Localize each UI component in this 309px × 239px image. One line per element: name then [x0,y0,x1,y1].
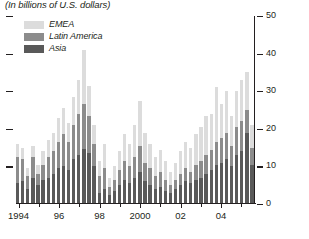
y-tick-label-0: 0 [266,199,271,208]
bar-segment-asia [72,159,75,204]
bar-segment-asia [143,181,146,204]
legend-label: Latin America [49,32,102,41]
bar-segment-asia [123,180,126,204]
bar-segment-latin-america [67,142,70,170]
bar-2004Q1 [220,104,223,204]
bar-1994Q3 [26,168,29,204]
bar-segment-latin-america [245,110,248,133]
bar-segment-emea [26,168,29,176]
bar-segment-latin-america [57,142,60,168]
bar-segment-latin-america [225,133,228,159]
bar-segment-asia [31,178,34,204]
bar-1999Q1 [118,151,121,204]
bar-segment-emea [215,87,218,142]
bar-segment-emea [179,151,182,174]
bar-segment-emea [87,86,90,116]
bar-segment-asia [230,166,233,204]
y-tick-right-10 [257,166,263,167]
bar-segment-latin-america [179,174,182,185]
y-tick-left-10 [6,166,13,167]
bar-segment-asia [82,149,85,204]
legend-swatch-icon [24,45,44,53]
bar-2002Q3 [189,148,192,204]
bar-2002Q2 [184,142,187,204]
bar-segment-asia [194,180,197,204]
bar-segment-emea [62,108,65,134]
bar-segment-emea [21,148,24,159]
x-axis-line [16,203,256,204]
bar-segment-emea [230,116,233,146]
y-tick-right-30 [257,91,263,92]
bar-segment-latin-america [215,142,218,165]
bar-segment-asia [128,183,131,204]
bar-segment-emea [189,148,192,172]
bar-segment-emea [98,161,101,176]
bar-1996Q4 [72,97,75,204]
bar-1998Q2 [103,144,106,204]
bar-1997Q4 [92,125,95,204]
legend-label: Asia [49,44,66,53]
bar-segment-emea [143,133,146,163]
bar-segment-asia [189,183,192,204]
bar-2004Q3 [230,116,233,204]
bar-segment-asia [179,185,182,204]
bar-segment-latin-america [118,170,121,185]
bar-1998Q4 [113,166,116,204]
legend-label: EMEA [49,20,74,29]
y-tick-right-50 [257,16,263,17]
x-tick-1994 [19,204,20,208]
bar-segment-emea [67,123,70,142]
bar-1994Q2 [21,148,24,204]
bar-segment-asia [57,168,60,204]
bar-2002Q1 [179,151,182,204]
x-tick-96 [59,204,60,208]
bar-1997Q1 [77,80,80,204]
x-tick-label-98: 98 [94,211,105,221]
bar-1999Q3 [128,144,131,204]
bar-1994Q4 [31,146,34,204]
bar-segment-latin-america [189,172,192,183]
bar-segment-latin-america [194,165,197,180]
bar-segment-asia [26,189,29,204]
bar-segment-latin-america [16,157,19,183]
legend-item-asia: Asia [24,43,102,54]
bar-segment-latin-america [164,180,167,191]
bar-1996Q3 [67,123,70,204]
bar-2003Q2 [204,116,207,204]
bar-segment-latin-america [220,138,223,162]
bar-1997Q3 [87,86,90,204]
bar-segment-asia [36,185,39,204]
bar-segment-asia [67,170,70,204]
bar-segment-asia [52,174,55,204]
bar-segment-emea [16,144,19,157]
chart-legend: EMEALatin AmericaAsia [24,19,102,55]
bar-segment-emea [148,144,151,168]
bar-segment-asia [21,181,24,204]
bar-segment-emea [128,144,131,167]
bar-segment-asia [220,163,223,204]
bar-segment-latin-america [199,161,202,178]
bar-2001Q2 [164,161,167,204]
y-tick-left-20 [6,129,13,130]
bar-segment-latin-america [138,146,141,172]
bar-segment-latin-america [21,159,24,182]
bar-2000Q4 [154,157,157,204]
bar-segment-latin-america [103,168,106,189]
bar-segment-asia [174,189,177,204]
bar-segment-asia [184,181,187,204]
bar-2000Q3 [148,144,151,204]
bar-segment-asia [41,180,44,204]
legend-item-emea: EMEA [24,19,102,30]
bar-segment-latin-america [148,168,151,185]
bar-segment-emea [133,125,136,157]
bar-2004Q4 [235,91,238,204]
bar-segment-emea [164,161,167,180]
x-tick-minor [160,204,161,207]
x-tick-label-04: 04 [216,211,227,221]
x-tick-label-02: 02 [175,211,186,221]
bar-segment-latin-america [159,172,162,187]
bar-segment-emea [204,116,207,155]
y-axis-line [254,16,255,204]
bar-segment-latin-america [92,144,95,167]
bar-segment-latin-america [133,157,136,178]
